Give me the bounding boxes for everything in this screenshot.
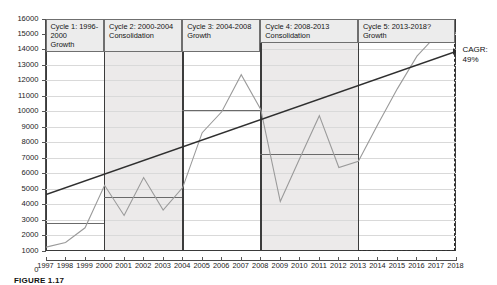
x-axis-tick-label: 2005	[192, 262, 212, 270]
y-axis-tick-mark	[42, 111, 46, 112]
cycle-title: Cycle 2: 2000-2004	[109, 22, 178, 31]
x-axis-tick-label: 2012	[328, 262, 348, 270]
x-axis-tick-label: 2000	[94, 262, 114, 270]
trend-line-cagr	[46, 51, 456, 194]
cycle-label-box-4[interactable]: Cycle 4: 2008-2013Consolidation	[260, 19, 358, 43]
x-axis-tick-mark	[260, 257, 261, 261]
y-axis-tick-mark	[42, 34, 46, 35]
cycle-title: Cycle 4: 2008-2013	[265, 22, 354, 31]
x-axis-tick-label: 1998	[55, 262, 75, 270]
x-axis-tick-mark	[65, 257, 66, 261]
y-axis-tick-mark	[42, 251, 46, 252]
x-axis-tick-label: 2013	[348, 262, 368, 270]
series-line-actual	[46, 32, 456, 246]
cagr-annotation: CAGR: 49%	[463, 45, 488, 65]
cycle-label-box-2[interactable]: Cycle 2: 2000-2004Consolidation	[104, 19, 182, 52]
x-axis-tick-label: 2010	[289, 262, 309, 270]
y-axis-tick-label: 3000	[0, 216, 39, 224]
cycle-title: Cycle 5: 2013-2018?	[363, 22, 452, 31]
cycle-phase: Consolidation	[109, 31, 178, 40]
x-axis-tick-mark	[280, 257, 281, 261]
x-axis-tick-label: 2007	[231, 262, 251, 270]
cycle-label-box-5[interactable]: Cycle 5: 2013-2018?Growth	[358, 19, 456, 43]
figure-caption: FIGURE 1.17	[14, 276, 64, 285]
y-axis-tick-label: 8000	[0, 138, 39, 146]
x-axis-tick-mark	[202, 257, 203, 261]
x-axis-tick-mark	[377, 257, 378, 261]
x-axis-tick-mark	[338, 257, 339, 261]
chart-lines	[46, 19, 456, 251]
y-axis-tick-label: 0	[0, 266, 39, 274]
x-axis-tick-label: 2018	[446, 262, 466, 270]
x-axis-tick-mark	[241, 257, 242, 261]
x-axis-tick-label: 2003	[153, 262, 173, 270]
x-axis-tick-label: 2014	[367, 262, 387, 270]
y-axis-tick-label: 10000	[0, 107, 39, 115]
cycle-phase: Growth	[51, 40, 101, 49]
cagr-value: 49%	[463, 55, 488, 65]
cycle-label-box-3[interactable]: Cycle 3: 2004-2008Growth	[182, 19, 260, 52]
x-axis-tick-mark	[358, 257, 359, 261]
x-axis-tick-mark	[221, 257, 222, 261]
cagr-label: CAGR:	[463, 45, 488, 55]
x-axis-tick-label: 2017	[426, 262, 446, 270]
x-axis-tick-label: 2004	[172, 262, 192, 270]
cycle-phase: Growth	[363, 31, 452, 40]
y-axis-tick-mark	[42, 189, 46, 190]
y-axis-tick-label: 11000	[0, 92, 39, 100]
cycle-label-box-1[interactable]: Cycle 1: 1996-2000Growth	[46, 19, 105, 52]
y-axis-tick-label: 14000	[0, 45, 39, 53]
x-axis-tick-mark	[85, 257, 86, 261]
y-axis-tick-label: 7000	[0, 154, 39, 162]
x-axis-tick-label: 2002	[133, 262, 153, 270]
cycle-title: Cycle 3: 2004-2008	[187, 22, 256, 31]
y-axis-tick-label: 13000	[0, 61, 39, 69]
y-axis-tick-mark	[42, 204, 46, 205]
y-axis-tick-label: 5000	[0, 185, 39, 193]
y-axis-tick-mark	[42, 19, 46, 20]
y-axis-tick-mark	[42, 158, 46, 159]
x-axis-tick-label: 1997	[36, 262, 56, 270]
x-axis-tick-label: 2011	[309, 262, 329, 270]
x-axis-tick-mark	[397, 257, 398, 261]
y-axis-tick-mark	[42, 235, 46, 236]
y-axis-tick-label: 9000	[0, 123, 39, 131]
y-axis-tick-mark	[42, 173, 46, 174]
cycle-title: Cycle 1: 1996-2000	[51, 22, 101, 40]
x-axis-tick-mark	[182, 257, 183, 261]
y-axis-tick-label: 4000	[0, 200, 39, 208]
trend-arrowhead-icon	[453, 48, 456, 54]
y-axis-line	[45, 19, 46, 252]
y-axis-tick-label: 1000	[0, 247, 39, 255]
y-axis-tick-mark	[42, 65, 46, 66]
x-axis-tick-mark	[163, 257, 164, 261]
cycle-phase: Consolidation	[265, 31, 354, 40]
x-axis-tick-label: 2006	[211, 262, 231, 270]
x-axis-tick-mark	[319, 257, 320, 261]
x-axis-tick-mark	[416, 257, 417, 261]
y-axis-tick-label: 2000	[0, 231, 39, 239]
cycle-phase: Growth	[187, 31, 256, 40]
x-axis-tick-mark	[456, 257, 457, 261]
x-axis-tick-label: 2015	[387, 262, 407, 270]
y-axis-tick-label: 16000	[0, 15, 39, 23]
x-axis-tick-mark	[46, 257, 47, 261]
x-axis-tick-label: 2008	[250, 262, 270, 270]
x-axis-tick-mark	[104, 257, 105, 261]
x-axis-tick-mark	[436, 257, 437, 261]
y-axis-tick-mark	[42, 142, 46, 143]
x-axis-tick-mark	[299, 257, 300, 261]
y-axis-tick-label: 15000	[0, 30, 39, 38]
chart-plot-area: Cycle 1: 1996-2000GrowthCycle 2: 2000-20…	[46, 19, 456, 251]
x-axis-tick-mark	[143, 257, 144, 261]
y-axis-tick-mark	[42, 127, 46, 128]
y-axis-tick-mark	[42, 49, 46, 50]
y-axis-tick-mark	[42, 96, 46, 97]
y-axis-tick-mark	[42, 220, 46, 221]
y-axis-tick-mark	[42, 80, 46, 81]
x-axis-tick-label: 2016	[406, 262, 426, 270]
x-axis-tick-label: 2001	[114, 262, 134, 270]
y-axis-tick-label: 6000	[0, 169, 39, 177]
x-axis-tick-label: 1999	[75, 262, 95, 270]
